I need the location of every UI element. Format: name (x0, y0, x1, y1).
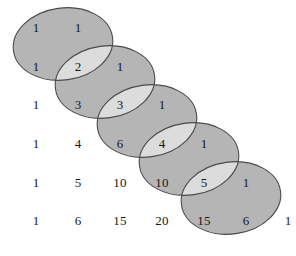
pascal-number-r3-c0: 1 (23, 135, 49, 153)
pascal-number-r5-c2: 15 (107, 212, 133, 230)
pascal-number-r3-c1: 4 (65, 135, 91, 153)
pascal-number-r2-c0: 1 (23, 96, 49, 114)
pascal-number-r2-c3: 1 (149, 96, 175, 114)
pascal-number-r0-c1: 1 (65, 19, 91, 37)
pascal-number-r5-c1: 6 (65, 212, 91, 230)
pascal-number-r2-c2: 3 (107, 96, 133, 114)
pascal-number-r5-c5: 6 (233, 212, 259, 230)
pascal-number-r1-c0: 1 (23, 58, 49, 76)
pascal-triangle-figure: 11121133114641151010511615201561 (0, 0, 296, 256)
pascal-number-r0-c0: 1 (23, 19, 49, 37)
pascal-number-r4-c0: 1 (23, 174, 49, 192)
pascal-number-r2-c1: 3 (65, 96, 91, 114)
pascal-number-r5-c3: 20 (149, 212, 175, 230)
pascal-number-r4-c5: 1 (233, 174, 259, 192)
pascal-number-r4-c4: 5 (191, 174, 217, 192)
pascal-number-r1-c1: 2 (65, 58, 91, 76)
pascal-number-r3-c4: 1 (191, 135, 217, 153)
pascal-number-r3-c3: 4 (149, 135, 175, 153)
pascal-number-r5-c4: 15 (191, 212, 217, 230)
pascal-number-r1-c2: 1 (107, 58, 133, 76)
pascal-number-r3-c2: 6 (107, 135, 133, 153)
pascal-number-r4-c2: 10 (107, 174, 133, 192)
pascal-number-r5-c6: 1 (275, 212, 296, 230)
pascal-number-r4-c1: 5 (65, 174, 91, 192)
pascal-number-r5-c0: 1 (23, 212, 49, 230)
pascal-number-r4-c3: 10 (149, 174, 175, 192)
